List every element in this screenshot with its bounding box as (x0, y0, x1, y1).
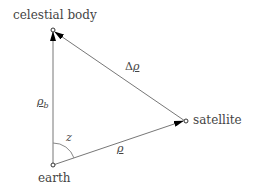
vector-delta-rho (55, 32, 185, 121)
label-delta-rho: Δρ (125, 61, 139, 72)
label-rho-b: ρb (37, 96, 49, 110)
label-satellite: satellite (193, 114, 242, 126)
angle-arc-z (53, 143, 74, 158)
node-celestial-body (51, 28, 55, 32)
node-satellite (184, 119, 188, 123)
label-rho: ρ (117, 143, 123, 154)
label-earth: earth (38, 172, 71, 184)
node-earth (51, 163, 55, 167)
label-celestial-body: celestial body (13, 9, 97, 21)
label-angle-z: z (66, 132, 72, 143)
